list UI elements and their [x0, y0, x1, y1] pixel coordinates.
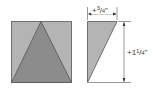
- cut-piece-shape: [88, 22, 118, 83]
- width-label: +3/4": [92, 5, 108, 15]
- arrow-right-icon: [113, 13, 117, 16]
- width-dimension: +3/4": [88, 5, 118, 20]
- arrow-left-icon: [88, 13, 92, 16]
- arrow-down-icon: [123, 78, 126, 82]
- arrow-up-icon: [123, 22, 126, 26]
- diagram-canvas: +3/4" +11/4": [0, 0, 153, 90]
- height-label: +11/4": [127, 48, 147, 58]
